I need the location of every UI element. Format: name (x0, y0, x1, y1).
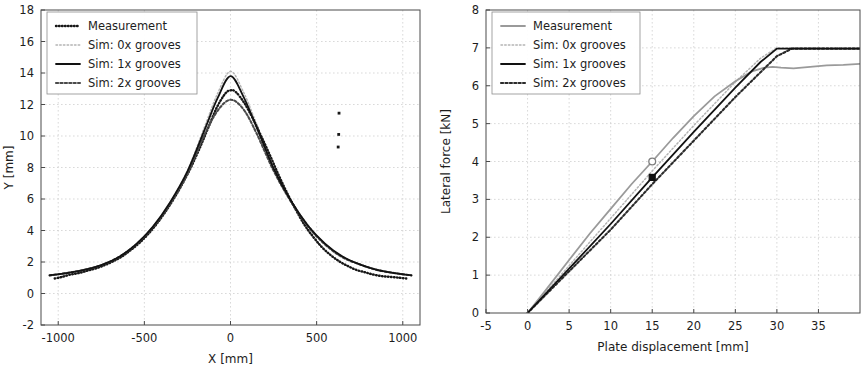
y-tick-label: 8 (27, 161, 34, 175)
x-tick-label: 10 (603, 319, 618, 333)
y-tick-label: 6 (472, 79, 479, 93)
chart-panel-right: 012345678-505101520253035Plate displacem… (434, 0, 868, 368)
filled-square-marker (649, 174, 655, 180)
open-circle-marker (649, 158, 656, 165)
y-tick-label: 1 (472, 268, 479, 282)
y-tick-label: 7 (472, 41, 479, 55)
x-tick-label: 5 (565, 319, 572, 333)
y-tick-label: 12 (19, 98, 34, 112)
x-tick-label: 20 (686, 319, 701, 333)
left-chart-svg: -2024681012141618-1000-50005001000X [mm]… (0, 0, 434, 368)
y-tick-label: 0 (472, 306, 479, 320)
outlier-data-point (338, 112, 341, 115)
x-axis-title: X [mm] (208, 352, 253, 366)
legend-label-1: Measurement (533, 19, 612, 33)
x-tick-label: 0 (227, 331, 234, 345)
legend-label-2: Sim: 0x grooves (533, 38, 626, 52)
legend-label-4: Sim: 2x grooves (533, 76, 626, 90)
y-tick-label: 6 (27, 192, 34, 206)
y-tick-label: 8 (472, 3, 479, 17)
legend-label-1: Measurement (88, 19, 167, 33)
x-tick-label: 0 (524, 319, 531, 333)
y-tick-label: 16 (19, 35, 34, 49)
legend-label-3: Sim: 1x grooves (88, 57, 181, 71)
y-tick-label: -2 (23, 318, 34, 332)
series-line-measurement (528, 64, 860, 313)
y-tick-label: 2 (472, 230, 479, 244)
x-tick-label: -5 (480, 319, 491, 333)
y-tick-label: 2 (27, 255, 34, 269)
y-axis-title: Y [mm] (2, 146, 16, 191)
y-axis-title: Lateral force [kN] (439, 109, 453, 214)
x-tick-label: -500 (131, 331, 157, 345)
x-tick-label: 500 (306, 331, 328, 345)
x-axis-title: Plate displacement [mm] (597, 340, 748, 354)
y-tick-label: 18 (19, 3, 34, 17)
x-tick-label: 1000 (388, 331, 417, 345)
x-tick-label: 35 (811, 319, 826, 333)
outlier-data-point (337, 146, 340, 149)
legend: MeasurementSim: 0x groovesSim: 1x groove… (47, 12, 197, 94)
x-tick-label: 30 (770, 319, 785, 333)
x-tick-label: 15 (645, 319, 660, 333)
legend-label-3: Sim: 1x grooves (533, 57, 626, 71)
outlier-data-point (337, 133, 340, 136)
y-tick-label: 10 (19, 129, 34, 143)
y-tick-label: 0 (27, 287, 34, 301)
x-tick-label: 25 (728, 319, 743, 333)
y-tick-label: 14 (19, 66, 34, 80)
y-tick-label: 4 (472, 155, 479, 169)
right-chart-svg: 012345678-505101520253035Plate displacem… (434, 0, 868, 368)
figure-two-panel-chart: -2024681012141618-1000-50005001000X [mm]… (0, 0, 868, 368)
legend-label-2: Sim: 0x grooves (88, 38, 181, 52)
legend: MeasurementSim: 0x groovesSim: 1x groove… (492, 12, 640, 94)
x-tick-label: -1000 (42, 331, 75, 345)
legend-label-4: Sim: 2x grooves (88, 76, 181, 90)
chart-panel-left: -2024681012141618-1000-50005001000X [mm]… (0, 0, 434, 368)
y-tick-label: 5 (472, 117, 479, 131)
y-tick-label: 3 (472, 192, 479, 206)
y-tick-label: 4 (27, 224, 34, 238)
